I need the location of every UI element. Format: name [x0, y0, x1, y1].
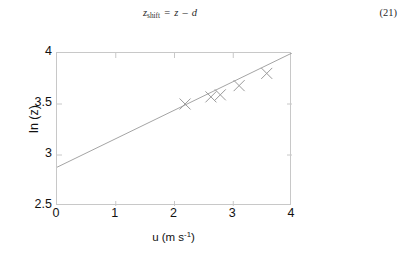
- equation-row: zshift = z – d (21): [0, 0, 405, 34]
- equation-rhs-right: d: [192, 7, 197, 18]
- x-tick-label: 0: [41, 206, 71, 220]
- axis-ticks: [57, 53, 292, 206]
- figure: ln (z) 2.533.54 01234 u (m s-1): [0, 34, 405, 256]
- x-tick-label: 2: [159, 206, 189, 220]
- equation-equals: =: [163, 7, 172, 18]
- data-point-marker: [215, 89, 226, 100]
- data-series: [57, 53, 292, 167]
- fit-line: [57, 53, 292, 167]
- y-tick-label: 4: [4, 44, 52, 58]
- equation-text: zshift = z – d: [0, 7, 340, 20]
- equation-operator: –: [181, 7, 189, 18]
- equation-subscript: shift: [147, 11, 160, 20]
- x-axis-label-tail: ): [191, 231, 195, 243]
- x-tick-label: 3: [217, 206, 247, 220]
- x-tick-label: 4: [276, 206, 306, 220]
- y-tick-label: 3: [4, 146, 52, 160]
- x-axis-label-base: u (m s: [152, 231, 184, 243]
- plot-area: [56, 52, 291, 205]
- data-point-marker: [180, 99, 191, 110]
- x-tick-label: 1: [100, 206, 130, 220]
- x-axis-label: u (m s-1): [56, 230, 291, 243]
- data-point-marker: [234, 80, 245, 91]
- y-tick-label: 3.5: [4, 95, 52, 109]
- x-axis-label-exponent: -1: [184, 230, 191, 239]
- data-point-marker: [261, 68, 272, 79]
- equation-rhs-left: z: [174, 7, 178, 18]
- equation-number: (21): [380, 7, 398, 18]
- data-point-marker: [205, 91, 216, 102]
- plot-svg: [57, 53, 292, 206]
